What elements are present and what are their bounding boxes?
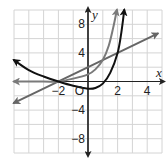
- x-tick-label: 4: [144, 84, 151, 98]
- gray-line: [14, 34, 158, 103]
- y-tick-label: −8: [71, 132, 85, 146]
- x-tick-label: 2: [114, 84, 121, 98]
- coordinate-graph: −22484−4−8xyO: [0, 0, 166, 158]
- x-axis-label: x: [155, 65, 162, 80]
- y-tick-label: −4: [71, 103, 85, 117]
- origin-label: O: [75, 84, 84, 98]
- y-tick-label: 8: [78, 17, 85, 31]
- x-tick-label: −2: [52, 84, 66, 98]
- y-tick-label: 4: [78, 46, 85, 60]
- y-axis-label: y: [90, 7, 98, 22]
